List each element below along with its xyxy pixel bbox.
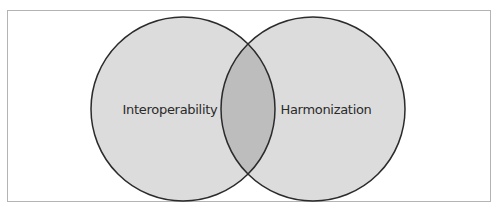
venn-diagram bbox=[0, 0, 498, 215]
label-harmonization: Harmonization bbox=[280, 102, 371, 117]
label-interoperability: Interoperability bbox=[123, 102, 218, 117]
